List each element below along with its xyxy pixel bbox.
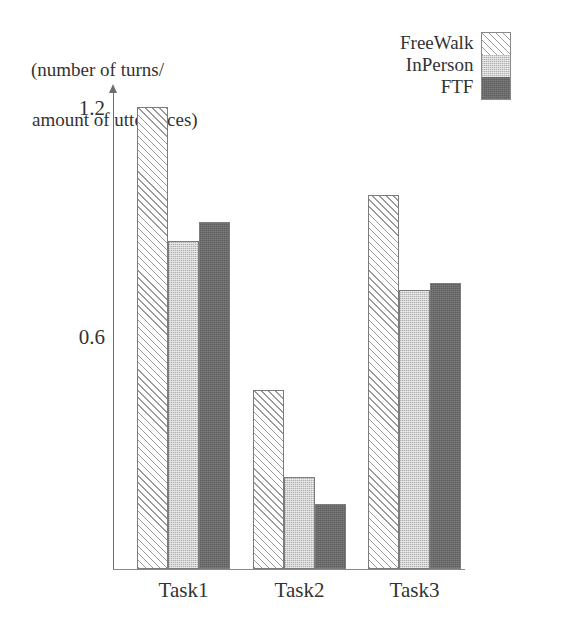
x-axis-line xyxy=(113,569,465,570)
bar-chart-figure: (number of turns/ amount of utterances) … xyxy=(0,0,586,642)
x-tick-label-task1: Task1 xyxy=(124,578,244,603)
bar-freewalk-task3 xyxy=(368,195,399,569)
x-tick-label-task3: Task3 xyxy=(355,578,475,603)
bar-freewalk-task2 xyxy=(253,390,284,569)
x-tick-label-task2: Task2 xyxy=(240,578,360,603)
plot-area: 0.61.2 Task1Task2Task3 xyxy=(0,0,586,642)
bar-freewalk-task1 xyxy=(137,107,168,569)
bar-inperson-task2 xyxy=(284,477,315,569)
bar-inperson-task3 xyxy=(399,290,430,569)
y-tick-label: 0.6 xyxy=(79,325,105,350)
bar-ftf-task1 xyxy=(199,222,230,569)
bar-inperson-task1 xyxy=(168,241,199,569)
y-tick-label: 1.2 xyxy=(79,96,105,121)
y-axis-line xyxy=(113,90,114,570)
bar-ftf-task3 xyxy=(430,283,461,569)
bar-ftf-task2 xyxy=(315,504,346,569)
